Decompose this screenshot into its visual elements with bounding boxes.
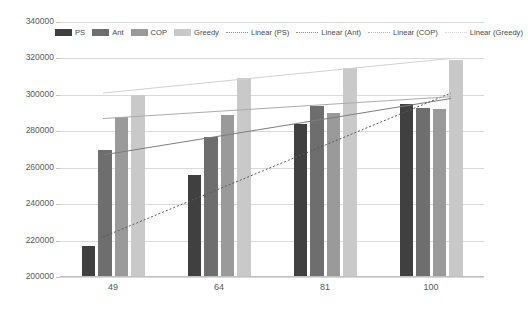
legend-item-lineargreedy[interactable]: Linear (Greedy) xyxy=(445,28,523,37)
y-axis-tick-label: 240000 xyxy=(4,198,54,208)
legend-swatch-icon xyxy=(92,29,109,36)
legend-item-linearcop[interactable]: Linear (COP) xyxy=(368,28,438,37)
bar-greedy-81[interactable] xyxy=(343,68,357,277)
bar-group xyxy=(294,22,357,277)
legend-item-linearps[interactable]: Linear (PS) xyxy=(226,28,289,37)
legend-swatch-icon xyxy=(55,29,72,36)
legend-dashline-icon xyxy=(296,32,318,33)
plot-area: 2000002200002400002600002800003000003200… xyxy=(60,22,484,277)
legend-dashline-icon xyxy=(368,32,390,33)
bar-ant-100[interactable] xyxy=(416,108,430,277)
y-axis-tick-label: 300000 xyxy=(4,89,54,99)
bar-cop-100[interactable] xyxy=(433,109,447,277)
y-tick-mark xyxy=(56,95,60,96)
y-axis-tick-label: 280000 xyxy=(4,125,54,135)
legend-label: Ant xyxy=(112,28,123,37)
bar-greedy-49[interactable] xyxy=(131,95,145,277)
x-axis-label: 81 xyxy=(272,282,378,292)
y-tick-mark xyxy=(56,277,60,278)
y-tick-mark xyxy=(56,131,60,132)
legend-label: Linear (PS) xyxy=(251,28,289,37)
bar-ant-81[interactable] xyxy=(310,106,324,277)
bar-cop-64[interactable] xyxy=(221,115,235,277)
bar-ps-64[interactable] xyxy=(188,175,202,277)
legend-item-linearant[interactable]: Linear (Ant) xyxy=(296,28,361,37)
y-axis-tick-label: 200000 xyxy=(4,271,54,281)
bar-group xyxy=(400,22,463,277)
legend-label: Linear (COP) xyxy=(393,28,438,37)
bar-group xyxy=(82,22,145,277)
legend-label: Linear (Greedy) xyxy=(470,28,523,37)
bar-ps-100[interactable] xyxy=(400,104,414,277)
x-axis-label: 64 xyxy=(166,282,272,292)
legend-swatch-icon xyxy=(174,29,191,36)
x-axis-line xyxy=(60,276,484,277)
y-tick-mark xyxy=(56,58,60,59)
bar-cop-49[interactable] xyxy=(115,117,129,277)
legend-label: Linear (Ant) xyxy=(321,28,361,37)
bar-greedy-100[interactable] xyxy=(449,60,463,277)
y-tick-mark xyxy=(56,204,60,205)
bar-ant-64[interactable] xyxy=(204,137,218,277)
x-axis-label: 100 xyxy=(378,282,484,292)
bar-greedy-64[interactable] xyxy=(237,78,251,277)
chart-legend: PSAntCOPGreedyLinear (PS)Linear (Ant)Lin… xyxy=(55,25,528,39)
legend-label: COP xyxy=(151,28,167,37)
y-tick-mark xyxy=(56,22,60,23)
y-tick-mark xyxy=(56,241,60,242)
y-axis-tick-label: 320000 xyxy=(4,52,54,62)
y-axis-tick-label: 260000 xyxy=(4,162,54,172)
legend-item-ant[interactable]: Ant xyxy=(92,28,123,37)
bar-ps-81[interactable] xyxy=(294,124,308,277)
bar-ant-49[interactable] xyxy=(98,150,112,278)
legend-item-cop[interactable]: COP xyxy=(131,28,167,37)
legend-dashline-icon xyxy=(226,32,248,33)
x-axis-label: 49 xyxy=(60,282,166,292)
y-axis-tick-label: 220000 xyxy=(4,235,54,245)
y-axis-tick-label: 340000 xyxy=(4,16,54,26)
y-axis-tick: 200000 xyxy=(60,277,484,278)
legend-dashline-icon xyxy=(445,32,467,33)
legend-item-greedy[interactable]: Greedy xyxy=(174,28,219,37)
y-tick-mark xyxy=(56,168,60,169)
gridline xyxy=(60,277,484,278)
bar-group xyxy=(188,22,251,277)
legend-label: Greedy xyxy=(194,28,219,37)
legend-label: PS xyxy=(75,28,85,37)
bar-cop-81[interactable] xyxy=(327,113,341,277)
bar-ps-49[interactable] xyxy=(82,246,96,277)
legend-item-ps[interactable]: PS xyxy=(55,28,85,37)
legend-swatch-icon xyxy=(131,29,148,36)
